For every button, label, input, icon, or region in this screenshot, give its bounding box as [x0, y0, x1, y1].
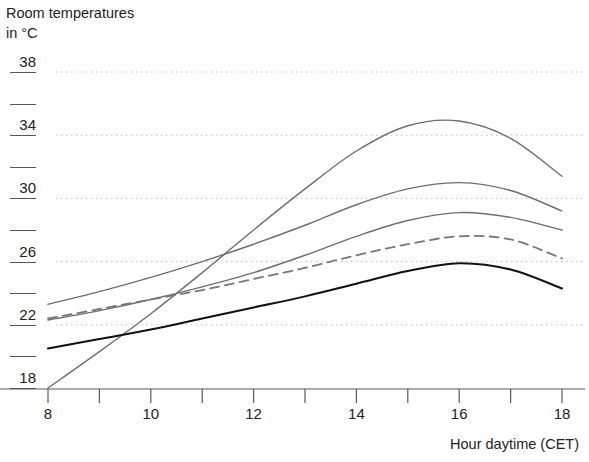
x-tick-label-16: 16 — [444, 405, 474, 422]
y-tick-label-34: 34 — [4, 116, 36, 133]
x-tick-label-18: 18 — [547, 405, 577, 422]
chart-container: Room temperatures in °C Hour daytime (CE… — [0, 0, 589, 462]
y-tick-label-22: 22 — [4, 306, 36, 323]
y-minor-tick-mark-36 — [10, 104, 36, 105]
plot-area — [0, 0, 589, 462]
y-tick-mark-38 — [10, 72, 36, 73]
series-curve-1-steep-rise — [48, 120, 562, 388]
y-minor-tick-mark-24 — [10, 293, 36, 294]
y-tick-mark-30 — [10, 198, 36, 199]
y-minor-tick-mark-32 — [10, 167, 36, 168]
y-tick-label-38: 38 — [4, 53, 36, 70]
y-tick-mark-26 — [10, 262, 36, 263]
y-tick-mark-22 — [10, 325, 36, 326]
y-tick-label-26: 26 — [4, 243, 36, 260]
x-tick-label-10: 10 — [136, 405, 166, 422]
y-tick-label-18: 18 — [4, 369, 36, 386]
series-curve-2-upper — [48, 183, 562, 305]
x-tick-label-8: 8 — [33, 405, 63, 422]
y-tick-mark-18 — [10, 388, 36, 389]
x-tick-label-14: 14 — [341, 405, 371, 422]
x-tick-label-12: 12 — [239, 405, 269, 422]
y-tick-label-30: 30 — [4, 179, 36, 196]
y-minor-tick-mark-28 — [10, 230, 36, 231]
series-curve-4-dashed — [48, 236, 562, 319]
y-tick-mark-34 — [10, 135, 36, 136]
y-minor-tick-mark-20 — [10, 356, 36, 357]
